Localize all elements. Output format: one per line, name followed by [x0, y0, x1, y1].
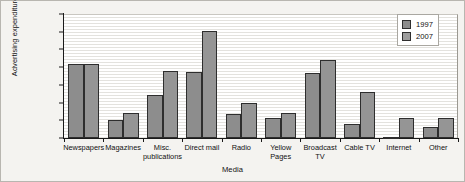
y-tick-mark — [59, 67, 63, 68]
bar-1997 — [186, 72, 202, 138]
x-tick-mark — [103, 138, 104, 142]
y-axis-title: Advertising expenditure ($m) — [10, 0, 19, 88]
legend-label-1997: 1997 — [416, 20, 433, 29]
bar-1997 — [265, 118, 281, 138]
bar-2007 — [399, 118, 415, 138]
x-tick-mark — [222, 138, 223, 142]
bar-2007 — [84, 64, 100, 138]
y-axis-line — [63, 13, 64, 139]
chart-legend: 1997 2007 — [397, 14, 439, 46]
x-tick-mark — [458, 138, 459, 142]
bar-2007 — [163, 71, 179, 138]
y-tick-mark — [59, 49, 63, 50]
bar-2007 — [202, 31, 218, 138]
x-axis-title: Media — [1, 165, 464, 174]
bar-2007 — [320, 60, 336, 138]
y-tick-mark — [59, 138, 63, 139]
bar-1997 — [226, 114, 242, 138]
bar-2007 — [281, 113, 297, 138]
bar-1997 — [68, 64, 84, 138]
bar-chart-figure: Advertising expenditure ($m) Media 70000… — [0, 0, 465, 182]
y-tick-mark — [59, 31, 63, 32]
x-tick-mark — [419, 138, 420, 142]
bar-1997 — [423, 127, 439, 138]
y-tick-mark — [59, 84, 63, 85]
bar-1997 — [108, 120, 124, 138]
x-tick-mark — [182, 138, 183, 142]
x-tick-label: Other — [408, 143, 465, 152]
x-tick-mark — [379, 138, 380, 142]
legend-swatch-2007-icon — [402, 32, 411, 41]
x-tick-mark — [64, 138, 65, 142]
y-tick-mark — [59, 14, 63, 15]
bar-1997 — [147, 95, 163, 138]
legend-item-1997: 1997 — [402, 18, 433, 30]
bar-1997 — [383, 137, 399, 139]
legend-swatch-1997-icon — [402, 20, 411, 29]
y-tick-mark — [59, 120, 63, 121]
bar-2007 — [360, 92, 376, 138]
bar-1997 — [344, 124, 360, 138]
x-tick-mark — [143, 138, 144, 142]
legend-item-2007: 2007 — [402, 30, 433, 42]
x-tick-mark — [300, 138, 301, 142]
bar-2007 — [438, 118, 454, 138]
x-tick-mark — [261, 138, 262, 142]
bar-1997 — [305, 73, 321, 138]
bar-2007 — [123, 113, 139, 138]
legend-label-2007: 2007 — [416, 32, 433, 41]
y-tick-mark — [59, 102, 63, 103]
x-tick-mark — [340, 138, 341, 142]
bar-2007 — [241, 103, 257, 138]
